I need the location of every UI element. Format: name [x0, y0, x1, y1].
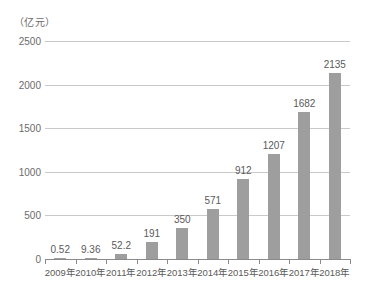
y-axis-tick-label: 500 — [1, 210, 41, 221]
bar-value-label: 191 — [143, 228, 160, 239]
x-axis-tick-label: 2018年 — [319, 265, 350, 279]
bar — [115, 254, 127, 259]
gridline — [45, 41, 350, 42]
chart-container: （亿元） 0.529.3652.219135057191212071682213… — [0, 0, 375, 295]
x-axis-tick-mark — [259, 259, 260, 264]
x-axis-tick-mark — [320, 259, 321, 264]
x-axis-tick-label: 2012年 — [136, 265, 167, 279]
bar — [54, 258, 66, 259]
x-axis-tick-label: 2014年 — [197, 265, 228, 279]
x-axis-tick-label: 2010年 — [75, 265, 106, 279]
x-axis-tick-mark — [137, 259, 138, 264]
bar-value-label: 9.36 — [81, 244, 100, 255]
y-axis-tick-label: 1000 — [1, 166, 41, 177]
bar — [268, 154, 280, 259]
y-axis-tick-label: 1500 — [1, 123, 41, 134]
bar-value-label: 912 — [235, 165, 252, 176]
y-axis-tick-label: 2000 — [1, 79, 41, 90]
x-axis-tick-mark — [350, 259, 351, 264]
bar — [176, 228, 188, 259]
x-axis-tick-label: 2015年 — [228, 265, 259, 279]
bar-value-label: 52.2 — [112, 240, 131, 251]
y-axis-tick-label: 0 — [1, 254, 41, 265]
x-axis-tick-mark — [228, 259, 229, 264]
x-axis-tick-label: 2017年 — [289, 265, 320, 279]
x-axis-tick-label: 2013年 — [167, 265, 198, 279]
bar-value-label: 350 — [174, 214, 191, 225]
y-axis-unit-label: （亿元） — [14, 14, 55, 29]
bar-value-label: 1207 — [263, 140, 285, 151]
x-axis-tick-mark — [76, 259, 77, 264]
bar-value-label: 0.52 — [51, 244, 70, 255]
x-axis-tick-mark — [198, 259, 199, 264]
bar — [207, 209, 219, 259]
x-axis-tick-label: 2009年 — [45, 265, 76, 279]
x-axis-tick-mark — [289, 259, 290, 264]
x-axis-tick-mark — [45, 259, 46, 264]
bar-value-label: 571 — [204, 195, 221, 206]
x-axis-tick-mark — [106, 259, 107, 264]
bar — [298, 112, 310, 259]
x-axis-tick-label: 2011年 — [106, 265, 136, 279]
bar — [146, 242, 158, 259]
bar — [85, 258, 97, 259]
y-axis-tick-label: 2500 — [1, 36, 41, 47]
bar — [329, 73, 341, 259]
gridline — [45, 85, 350, 86]
bar — [237, 179, 249, 259]
x-axis-tick-mark — [167, 259, 168, 264]
plot-area: 0.529.3652.2191350571912120716822135 — [45, 41, 350, 259]
x-axis-tick-label: 2016年 — [258, 265, 289, 279]
bar-value-label: 1682 — [293, 98, 315, 109]
bar-value-label: 2135 — [324, 59, 346, 70]
